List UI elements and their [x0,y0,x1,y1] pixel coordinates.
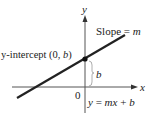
equation-label: y = mx + b [88,97,135,108]
intercept-label: y-intercept (0, b) [1,50,72,61]
eq-equals: = [93,96,105,108]
x-axis-arrow-icon [131,85,138,90]
slope-var: m [133,25,141,37]
slope-label: Slope = m [96,26,141,37]
brace-label: b [96,69,102,80]
line-graph [17,35,125,98]
intercept-close: ) [68,49,72,60]
intercept-text: y-intercept (0, [1,49,63,60]
x-axis-label: x [140,82,145,93]
y-axis-arrow-icon [83,15,88,22]
y-axis-label: y [82,4,87,15]
y-intercept-point [82,56,87,61]
brace-icon [89,61,94,86]
origin-label: 0 [75,90,81,101]
eq-mx: mx [105,96,118,108]
eq-plus: + [117,96,129,108]
slope-text: Slope = [96,25,133,37]
eq-b: b [129,96,135,108]
